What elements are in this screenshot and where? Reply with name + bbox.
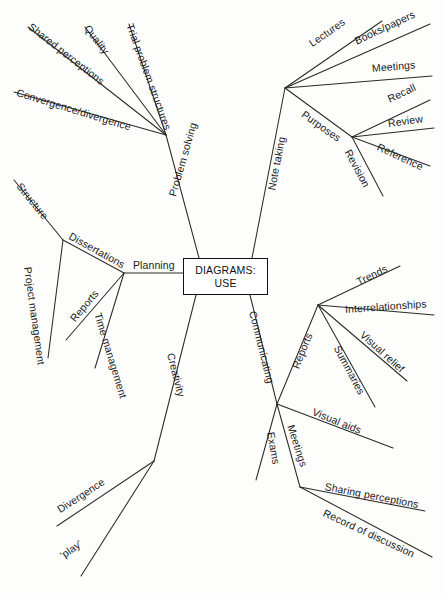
- branch-label-books-papers[interactable]: Books/papers: [352, 8, 416, 47]
- branch-label-recall[interactable]: Recall: [385, 81, 417, 104]
- branch-label-record-of-discussion[interactable]: Record of discussion: [321, 507, 416, 560]
- center-node-line1: DIAGRAMS:: [195, 264, 256, 276]
- branch-label-exams[interactable]: Exams: [265, 431, 282, 465]
- branch-label-creativity[interactable]: Creativity: [165, 352, 187, 398]
- branch-label-communicating[interactable]: Communicating: [247, 310, 277, 385]
- branch-label-summaries[interactable]: Summaries: [332, 343, 368, 396]
- branch-label-planning[interactable]: Planning: [133, 259, 175, 271]
- branch-label-meetings-notes[interactable]: Meetings: [371, 58, 415, 74]
- branch-label-reference[interactable]: Reference: [375, 141, 425, 173]
- branch-label-purposes[interactable]: Purposes: [300, 108, 344, 144]
- branch-label-sharing-perceptions[interactable]: Sharing perceptions: [324, 480, 420, 510]
- branch-label-convergence-divergence[interactable]: Convergence/divergence: [15, 86, 132, 132]
- branch-label-trial-problem-structures[interactable]: Trial problem structures: [124, 22, 174, 132]
- branch-label-dissertations[interactable]: Dissertations: [67, 230, 127, 271]
- branch-label-lectures[interactable]: Lectures: [307, 16, 348, 49]
- branch-label-note-taking[interactable]: Note taking: [265, 136, 287, 192]
- mind-map-canvas: Problem solving Shared perceptions Quali…: [0, 0, 445, 594]
- branch-label-structure[interactable]: Structure: [14, 180, 51, 221]
- branch-label-meetings-communicating[interactable]: Meetings: [285, 423, 310, 468]
- branch-label-visual-relief[interactable]: Visual relief: [358, 329, 407, 375]
- branch-label-play[interactable]: 'play': [58, 537, 84, 561]
- branch-label-problem-solving[interactable]: Problem solving: [166, 121, 199, 198]
- branch-label-divergence[interactable]: Divergence: [55, 475, 107, 515]
- branch-label-interrelationships[interactable]: Interrelationships: [345, 297, 427, 315]
- branch-label-project-management[interactable]: Project management: [22, 266, 48, 365]
- branch-label-quality[interactable]: Quality: [82, 22, 112, 56]
- branch-label-revision[interactable]: Revision: [343, 147, 373, 189]
- branch-label-visual-aids[interactable]: Visual aids: [311, 405, 363, 435]
- center-node-line2: USE: [214, 277, 236, 289]
- branch-label-trends[interactable]: Trends: [354, 262, 389, 287]
- center-node[interactable]: DIAGRAMS: USE: [183, 258, 268, 295]
- branch-label-reports-communicating[interactable]: Reports: [289, 331, 314, 370]
- branch-label-time-management[interactable]: Time management: [92, 311, 129, 399]
- branch-label-review[interactable]: Review: [387, 112, 423, 129]
